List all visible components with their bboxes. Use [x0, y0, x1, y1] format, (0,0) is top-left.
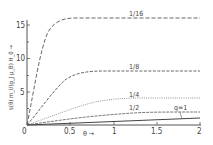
tick-label-y-15: 15 [16, 21, 25, 30]
q1-label-leader [180, 112, 182, 119]
tick-label-x-1: 1 [112, 127, 117, 136]
tick-label-origin: 0 [22, 127, 27, 136]
label-1-4: 1/4 [129, 91, 139, 99]
curve-1-8 [27, 71, 200, 125]
label-1-16: 1/16 [129, 10, 143, 18]
y-axis-label: s(θ) m_I/(g_J μ_B) H_0 → [7, 44, 15, 110]
chart: 0 0.5 1 1.5 2 5 10 15 θ → s(θ) m_I/(g_J … [0, 0, 213, 145]
tick-label-x-0.5: 0.5 [64, 127, 75, 136]
tick-label-y-5: 5 [20, 88, 25, 97]
tick-label-y-10: 10 [16, 54, 26, 63]
tick-label-x-2: 2 [197, 127, 202, 136]
label-q1: q=1 [174, 104, 187, 112]
tick-label-x-1.5: 1.5 [151, 127, 162, 136]
x-axis-label: θ → [83, 130, 94, 138]
label-1-2: 1/2 [129, 104, 139, 112]
label-1-8: 1/8 [129, 63, 139, 71]
curve-1-2 [27, 112, 200, 125]
